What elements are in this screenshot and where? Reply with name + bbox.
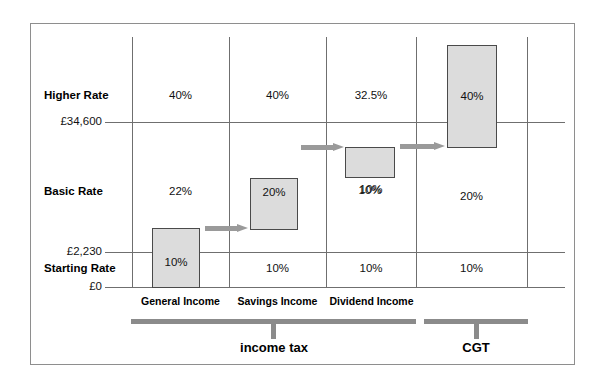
arrow-dividend-to-cgt	[400, 142, 445, 151]
axis-tick-34600: £34,600	[30, 115, 102, 127]
arrow-general-to-savings	[205, 224, 248, 233]
group-label-income-tax: income tax	[204, 340, 344, 355]
group-tick-income-tax	[271, 324, 276, 339]
cell-dividend-higher: 32.5%	[326, 89, 416, 101]
cell-cgt-basic: 20%	[416, 190, 527, 202]
highlight-box-general-income: 10%	[152, 228, 200, 288]
grid-vline-3	[326, 37, 327, 288]
group-tick-cgt	[474, 324, 479, 339]
column-caption-dividend-income: Dividend Income	[313, 295, 430, 307]
highlight-box-cgt-label: 40%	[448, 90, 496, 102]
band-label-basic-rate: Basic Rate	[44, 185, 103, 197]
highlight-box-savings-income-label: 20%	[251, 186, 297, 198]
grid-vline-2	[229, 37, 230, 288]
cell-general-higher: 40%	[132, 89, 229, 101]
grid-vline-4	[416, 37, 417, 288]
band-label-starting-rate: Starting Rate	[44, 262, 116, 274]
group-label-cgt: CGT	[426, 340, 526, 355]
axis-tick-2230: £2,230	[30, 245, 102, 257]
highlight-box-savings-income: 20%	[250, 178, 298, 230]
highlight-box-dividend-income: 10%	[345, 147, 395, 178]
diagram-canvas: £34,600 £2,230 £0 Higher Rate Basic Rate…	[0, 0, 600, 389]
cell-general-basic: 22%	[132, 185, 229, 197]
highlight-box-cgt: 40%	[447, 45, 497, 148]
axis-tick-0: £0	[30, 280, 102, 292]
cell-cgt-starting: 10%	[416, 262, 527, 274]
cell-savings-higher: 40%	[229, 89, 326, 101]
grid-vline-5	[527, 37, 528, 288]
cell-dividend-starting: 10%	[326, 262, 416, 274]
grid-vline-1	[132, 37, 133, 288]
cell-savings-starting: 10%	[229, 262, 326, 274]
highlight-box-dividend-income-label: 10%	[346, 184, 394, 196]
band-label-higher-rate: Higher Rate	[44, 89, 109, 101]
highlight-box-general-income-label: 10%	[153, 256, 199, 268]
arrow-savings-to-dividend	[301, 143, 344, 152]
